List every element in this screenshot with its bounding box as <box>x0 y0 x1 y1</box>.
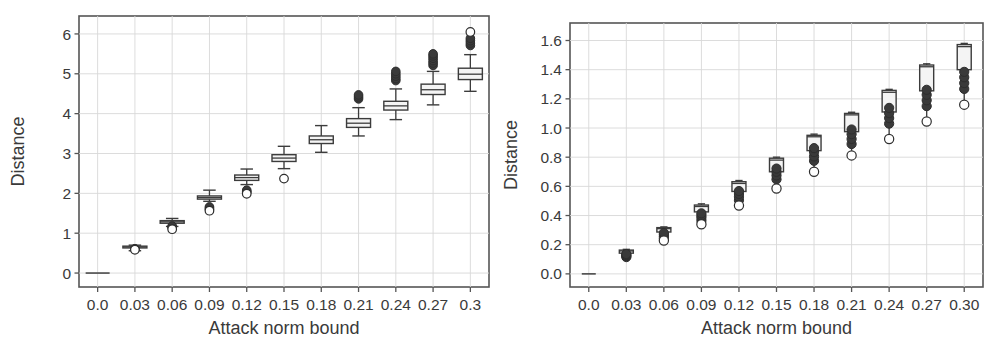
x-tick-label: 0.0 <box>87 296 109 313</box>
y-axis-title: Distance <box>501 120 521 190</box>
outlier-marker-dense <box>429 50 438 59</box>
x-tick-label: 0.18 <box>799 296 829 313</box>
y-tick-label: 4 <box>62 105 71 122</box>
x-tick-label: 0.27 <box>418 296 448 313</box>
outlier-marker <box>280 174 289 183</box>
outlier-marker <box>922 117 931 126</box>
outlier-marker <box>131 245 140 254</box>
x-tick-label: 0.09 <box>194 296 224 313</box>
x-tick-label: 0.0 <box>578 296 600 313</box>
outlier-marker-dense <box>847 125 856 134</box>
outlier-marker-dense <box>392 67 401 76</box>
x-tick-label: 0.24 <box>381 296 412 313</box>
y-tick-label: 1 <box>62 225 71 242</box>
x-tick-label: 0.06 <box>157 296 187 313</box>
chart-panel-left: 01234560.00.030.060.090.120.150.180.210.… <box>0 0 500 354</box>
y-tick-label: 0.0 <box>540 265 562 282</box>
outlier-marker <box>847 151 856 160</box>
x-tick-label: 0.12 <box>724 296 754 313</box>
x-tick-label: 0.09 <box>686 296 716 313</box>
y-tick-label: 0 <box>62 265 71 282</box>
outlier-marker-dense <box>809 144 818 153</box>
outlier-marker <box>466 28 475 37</box>
x-tick-label: 0.21 <box>837 296 867 313</box>
y-tick-label: 0.4 <box>540 207 562 224</box>
y-tick-label: 1.0 <box>540 120 562 137</box>
outlier-marker <box>168 225 177 234</box>
x-axis-title: Attack norm bound <box>208 318 359 338</box>
x-tick-label: 0.18 <box>306 296 336 313</box>
plot-area-right: 0.00.20.40.60.81.01.21.41.60.00.030.060.… <box>499 0 999 354</box>
y-tick-label: 0.6 <box>540 178 562 195</box>
chart-panel-right: 0.00.20.40.60.81.01.21.41.60.00.030.060.… <box>499 0 999 354</box>
y-tick-label: 0.2 <box>540 236 562 253</box>
outlier-marker <box>734 201 743 210</box>
boxplot-figure: 01234560.00.030.060.090.120.150.180.210.… <box>0 0 999 354</box>
boxplot-box <box>807 134 821 176</box>
outlier-marker <box>809 167 818 176</box>
outlier-marker <box>960 100 969 109</box>
y-tick-label: 0.8 <box>540 149 562 166</box>
x-tick-label: 0.15 <box>269 296 299 313</box>
x-tick-label: 0.21 <box>343 296 373 313</box>
outlier-marker-dense <box>354 91 363 100</box>
outlier-marker <box>697 220 706 229</box>
y-tick-label: 1.4 <box>540 61 562 78</box>
y-tick-label: 2 <box>62 185 71 202</box>
x-tick-label: 0.03 <box>120 296 150 313</box>
y-tick-label: 5 <box>62 65 71 82</box>
x-tick-label: 0.24 <box>874 296 905 313</box>
x-axis-title: Attack norm bound <box>701 318 852 338</box>
y-tick-label: 1.2 <box>540 90 562 107</box>
x-tick-label: 0.30 <box>949 296 980 313</box>
boxplot-box <box>694 204 708 229</box>
y-tick-label: 6 <box>62 26 71 43</box>
outlier-marker <box>205 206 214 215</box>
y-axis-title: Distance <box>8 116 28 186</box>
outlier-marker <box>242 189 251 198</box>
outlier-marker <box>772 184 781 193</box>
plot-area-left: 01234560.00.030.060.090.120.150.180.210.… <box>0 0 500 354</box>
outlier-marker-dense <box>885 103 894 112</box>
outlier-marker-dense <box>922 85 931 94</box>
outlier-marker <box>659 236 668 245</box>
outlier-marker <box>885 134 894 143</box>
outlier-marker-dense <box>622 249 631 258</box>
x-tick-label: 0.06 <box>649 296 679 313</box>
boxplot-box <box>770 157 784 193</box>
x-tick-label: 0.3 <box>460 296 482 313</box>
box-iqr-rect <box>957 45 971 70</box>
y-tick-label: 1.6 <box>540 32 562 49</box>
outlier-marker-dense <box>734 186 743 195</box>
outlier-marker-dense <box>697 209 706 218</box>
x-tick-label: 0.27 <box>912 296 942 313</box>
x-tick-label: 0.12 <box>232 296 262 313</box>
x-tick-label: 0.03 <box>611 296 641 313</box>
outlier-marker-dense <box>960 67 969 76</box>
x-tick-label: 0.15 <box>761 296 791 313</box>
outlier-marker-dense <box>772 164 781 173</box>
y-tick-label: 3 <box>62 145 71 162</box>
